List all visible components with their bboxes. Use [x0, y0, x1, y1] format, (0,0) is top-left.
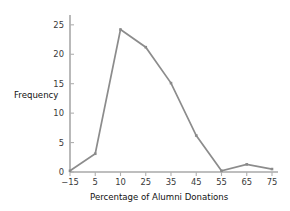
data-point-marker: [220, 170, 223, 173]
chart-container: 0510152025−15510253545556575 Frequency P…: [0, 0, 290, 211]
y-tick-label: 15: [53, 79, 64, 89]
x-axis-title: Percentage of Alumni Donations: [90, 192, 228, 202]
y-tick-label: 0: [59, 167, 64, 177]
data-point-marker: [94, 152, 97, 155]
data-series-line: [70, 30, 272, 171]
y-tick-label: 20: [53, 49, 64, 59]
data-point-marker: [271, 168, 274, 171]
y-tick-label: 10: [53, 108, 64, 118]
data-point-marker: [144, 46, 147, 49]
x-tick-label: 75: [267, 177, 278, 187]
x-tick-label: 25: [140, 177, 151, 187]
data-point-marker: [195, 134, 198, 137]
line-chart: 0510152025−15510253545556575: [0, 0, 290, 211]
y-tick-label: 25: [53, 20, 64, 30]
data-point-marker: [170, 82, 173, 85]
data-point-marker: [69, 170, 72, 173]
x-tick-label: 35: [166, 177, 177, 187]
y-tick-label: 5: [59, 138, 64, 148]
x-tick-label: −15: [61, 177, 79, 187]
data-point-marker: [245, 163, 248, 166]
x-tick-label: 45: [191, 177, 202, 187]
x-tick-label: 5: [93, 177, 98, 187]
data-point-marker: [119, 28, 122, 31]
x-tick-label: 10: [115, 177, 126, 187]
y-axis-title: Frequency: [14, 90, 58, 100]
x-tick-label: 65: [241, 177, 252, 187]
x-tick-label: 55: [216, 177, 227, 187]
